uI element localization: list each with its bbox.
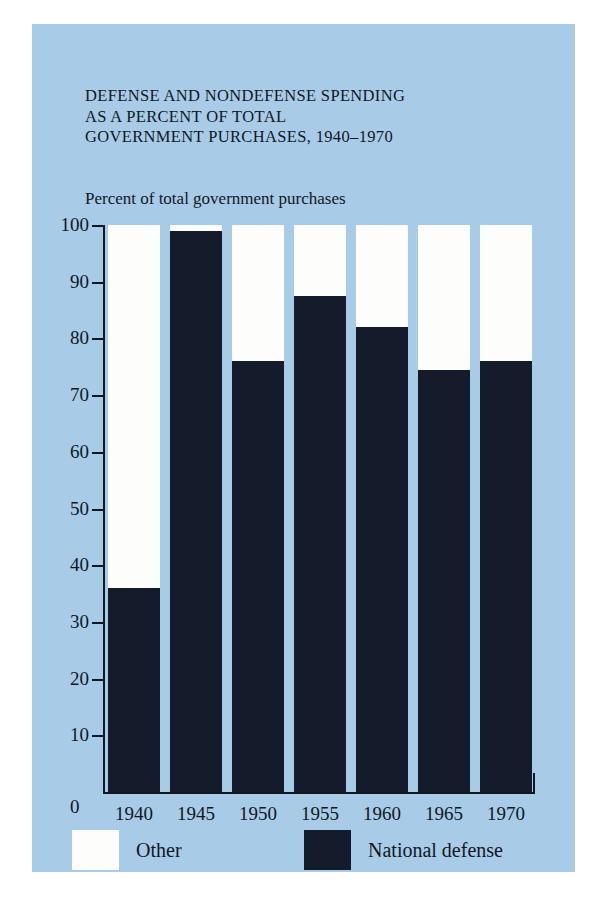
y-axis-tick-mark: [92, 679, 104, 681]
x-axis-label-1955: 1955: [290, 803, 350, 825]
legend-swatch-other: [72, 830, 119, 870]
y-axis-tick-mark: [92, 338, 104, 340]
bar-1940: [108, 225, 160, 792]
legend-swatch-national-defense: [304, 830, 351, 870]
x-axis-right-cap: [533, 773, 535, 794]
y-axis-tick-mark: [92, 565, 104, 567]
bar-1950: [232, 225, 284, 792]
y-axis-tick-label: 60: [70, 441, 89, 463]
x-axis-label-1940: 1940: [104, 803, 164, 825]
bar-segment-national-defense-1965: [418, 370, 470, 792]
x-axis-label-1960: 1960: [352, 803, 412, 825]
legend-label-national-defense: National defense: [368, 839, 503, 862]
y-axis-tick-label: 70: [70, 384, 89, 406]
legend-label-other: Other: [136, 839, 182, 862]
title-line-2: AS A PERCENT OF TOTAL: [85, 107, 525, 128]
x-axis-label-1965: 1965: [414, 803, 474, 825]
bar-segment-national-defense-1960: [356, 327, 408, 792]
bar-1970: [480, 225, 532, 792]
y-axis-tick-label: 50: [70, 498, 89, 520]
bar-1945: [170, 225, 222, 792]
legend-item-other: Other: [72, 830, 182, 870]
y-axis-zero-label: 0: [70, 796, 80, 818]
y-axis-tick-label: 100: [61, 214, 90, 236]
x-axis-label-1950: 1950: [228, 803, 288, 825]
y-axis-tick-mark: [92, 452, 104, 454]
plot-area: 102030405060708090100 194019451950195519…: [103, 225, 535, 792]
y-axis-tick-mark: [92, 225, 104, 227]
bar-1965: [418, 225, 470, 792]
x-axis-label-1945: 1945: [166, 803, 226, 825]
y-axis-tick-label: 80: [70, 327, 89, 349]
x-axis-label-1970: 1970: [476, 803, 536, 825]
y-axis-tick-label: 10: [70, 724, 89, 746]
x-axis-line: [103, 792, 535, 794]
bar-segment-national-defense-1970: [480, 361, 532, 792]
chart-legend: Other National defense: [72, 830, 542, 872]
legend-item-national-defense: National defense: [304, 830, 503, 870]
y-axis-tick-mark: [92, 282, 104, 284]
title-line-3: GOVERNMENT PURCHASES, 1940–1970: [85, 127, 525, 148]
title-line-1: DEFENSE AND NONDEFENSE SPENDING: [85, 86, 525, 107]
y-axis-tick-mark: [92, 622, 104, 624]
y-axis-tick-mark: [92, 735, 104, 737]
bar-segment-national-defense-1955: [294, 296, 346, 792]
y-axis-tick-mark: [92, 395, 104, 397]
y-axis-tick-label: 30: [70, 611, 89, 633]
chart-title: DEFENSE AND NONDEFENSE SPENDING AS A PER…: [85, 86, 525, 148]
y-axis-tick-label: 40: [70, 554, 89, 576]
bar-1955: [294, 225, 346, 792]
bar-segment-national-defense-1940: [108, 588, 160, 792]
bar-segment-national-defense-1950: [232, 361, 284, 792]
chart-subtitle: Percent of total government purchases: [85, 189, 346, 209]
y-axis-tick-label: 20: [70, 668, 89, 690]
y-axis-tick-label: 90: [70, 271, 89, 293]
bar-1960: [356, 225, 408, 792]
bar-segment-national-defense-1945: [170, 231, 222, 792]
chart-figure: DEFENSE AND NONDEFENSE SPENDING AS A PER…: [32, 24, 575, 872]
y-axis-tick-mark: [92, 509, 104, 511]
